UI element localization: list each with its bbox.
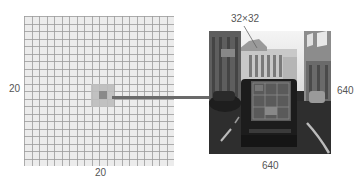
image-height-label: 640 <box>337 86 354 96</box>
grid-cell-highlight <box>99 91 107 99</box>
input-image <box>209 31 331 154</box>
patch-size-label: 32×32 <box>231 14 259 24</box>
grid-height-label: 20 <box>9 84 20 94</box>
grid-width-label: 20 <box>95 168 106 178</box>
street-scene-image <box>209 31 331 154</box>
image-width-label: 640 <box>262 161 279 171</box>
